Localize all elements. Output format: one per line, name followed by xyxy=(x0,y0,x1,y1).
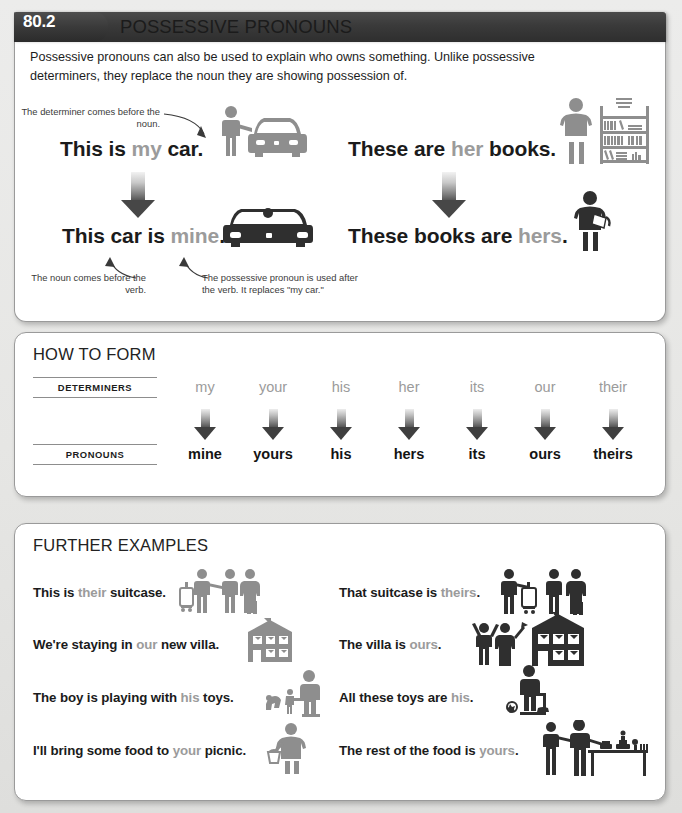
sentence-text-after: new villa. xyxy=(157,637,219,652)
further-example-left-0: This is their suitcase. xyxy=(33,585,166,600)
people-at-buffet-table-icon xyxy=(542,720,652,778)
transformation-arrow-left-icon xyxy=(121,172,155,218)
pronoun-highlight: ours xyxy=(409,637,437,652)
determiner-cell-1: your xyxy=(238,379,308,395)
column-arrow-5-icon xyxy=(534,409,556,442)
further-examples-heading: FURTHER EXAMPLES xyxy=(33,536,208,555)
sentence-text-before: This is xyxy=(60,137,132,160)
note-determiner-before-noun: The determiner comes before the noun. xyxy=(20,106,160,130)
woman-with-basket-icon xyxy=(265,722,311,774)
column-arrow-6-icon xyxy=(602,409,624,442)
column-arrow-4-icon xyxy=(466,409,488,442)
sentence-text-before: This is xyxy=(33,585,78,600)
person-with-car-icon xyxy=(218,104,314,160)
sentence-text-after: picnic. xyxy=(201,743,246,758)
villa-icon xyxy=(244,616,296,664)
example-sentence-my-car: This is my car. xyxy=(60,137,203,161)
pronoun-highlight: his xyxy=(451,690,470,705)
sentence-text-before: All these toys are xyxy=(339,690,451,705)
boy-with-toys-icon xyxy=(502,664,560,718)
further-example-left-3: I'll bring some food to your picnic. xyxy=(33,743,246,758)
sentence-text-before: These are xyxy=(348,137,451,160)
pronoun-cell-0: mine xyxy=(170,446,240,462)
further-example-left-2: The boy is playing with his toys. xyxy=(33,690,234,705)
sentence-text-after: . xyxy=(438,637,442,652)
determiner-cell-4: its xyxy=(442,379,512,395)
determiner-cell-2: his xyxy=(306,379,376,395)
row-label-pronouns: PRONOUNS xyxy=(33,444,157,465)
people-with-suitcase-icon xyxy=(500,568,592,616)
further-examples-panel: FURTHER EXAMPLES This is their suitcase. xyxy=(14,523,666,801)
sentence-text-before: This car is xyxy=(62,224,171,247)
further-example-right-0: That suitcase is theirs. xyxy=(339,585,480,600)
determiner-highlight: their xyxy=(78,585,106,600)
boy-with-toys-icon xyxy=(264,670,326,718)
example-sentence-car-is-mine: This car is mine. xyxy=(62,224,225,248)
pronoun-highlight: yours xyxy=(479,743,515,758)
determiner-highlight: our xyxy=(136,637,157,652)
pronoun-highlight: theirs xyxy=(441,585,477,600)
transformation-arrow-right-icon xyxy=(432,172,466,218)
pronoun-cell-6: theirs xyxy=(578,446,648,462)
car-icon xyxy=(222,203,316,251)
example-sentence-books-are-hers: These books are hers. xyxy=(348,224,568,248)
pronoun-cell-2: his xyxy=(306,446,376,462)
sentence-text-before: I'll bring some food to xyxy=(33,743,173,758)
pronoun-cell-1: yours xyxy=(238,446,308,462)
note-possessive-pronoun-after-verb: The possessive pronoun is used after the… xyxy=(202,272,362,296)
sentence-text-after: books. xyxy=(483,137,556,160)
column-arrow-1-icon xyxy=(262,409,284,442)
further-example-right-3: The rest of the food is yours. xyxy=(339,743,519,758)
sentence-text-after: toys. xyxy=(200,690,234,705)
intro-paragraph: Possessive pronouns can also be used to … xyxy=(30,48,590,85)
woman-holding-book-icon xyxy=(572,190,620,252)
sentence-text-before: The boy is playing with xyxy=(33,690,181,705)
pronoun-highlight: hers xyxy=(518,224,562,247)
column-arrow-0-icon xyxy=(194,409,216,442)
row-label-determiners: DETERMINERS xyxy=(33,377,157,398)
column-arrow-3-icon xyxy=(398,409,420,442)
sentence-text-after: . xyxy=(476,585,480,600)
sentence-text-after: suitcase. xyxy=(106,585,166,600)
sentence-text-before: The rest of the food is xyxy=(339,743,479,758)
sentence-text-before: We're staying in xyxy=(33,637,136,652)
sentence-text-after: car. xyxy=(162,137,204,160)
pronoun-cell-4: its xyxy=(442,446,512,462)
section-number-label: 80.2 xyxy=(23,12,55,31)
note-noun-before-verb: The noun comes before the verb. xyxy=(26,272,146,296)
determiner-cell-5: our xyxy=(510,379,580,395)
determiner-cell-6: their xyxy=(578,379,648,395)
pronoun-cell-5: ours xyxy=(510,446,580,462)
sentence-text-after: . xyxy=(562,224,568,247)
determiner-highlight: her xyxy=(451,137,483,160)
sentence-text-after: . xyxy=(515,743,519,758)
sentence-text-before: The villa is xyxy=(339,637,409,652)
example-sentence-her-books: These are her books. xyxy=(348,137,556,161)
determiner-cell-3: her xyxy=(374,379,444,395)
sentence-text-before: These books are xyxy=(348,224,518,247)
sentence-text-before: That suitcase is xyxy=(339,585,441,600)
how-to-form-panel: HOW TO FORM DETERMINERS PRONOUNS my your… xyxy=(14,332,666,497)
woman-with-bookshelf-icon xyxy=(558,96,662,166)
people-with-suitcase-icon xyxy=(178,568,268,616)
how-to-form-heading: HOW TO FORM xyxy=(33,345,156,364)
column-arrow-2-icon xyxy=(330,409,352,442)
page-background: 80.2 POSSESSIVE PRONOUNS Possessive pron… xyxy=(0,0,682,813)
further-example-right-2: All these toys are his. xyxy=(339,690,473,705)
page-title: POSSESSIVE PRONOUNS xyxy=(120,12,352,42)
determiner-highlight: your xyxy=(173,743,201,758)
determiner-highlight: my xyxy=(132,137,162,160)
pronoun-highlight: mine xyxy=(171,224,220,247)
sentence-text-after: . xyxy=(470,690,474,705)
determiner-cell-0: my xyxy=(170,379,240,395)
section-number-badge: 80.2 xyxy=(14,12,108,42)
pronoun-cell-3: hers xyxy=(374,446,444,462)
further-example-right-1: The villa is ours. xyxy=(339,637,441,652)
further-example-left-1: We're staying in our new villa. xyxy=(33,637,219,652)
determiner-highlight: his xyxy=(181,690,200,705)
couple-with-villa-icon xyxy=(470,610,594,666)
